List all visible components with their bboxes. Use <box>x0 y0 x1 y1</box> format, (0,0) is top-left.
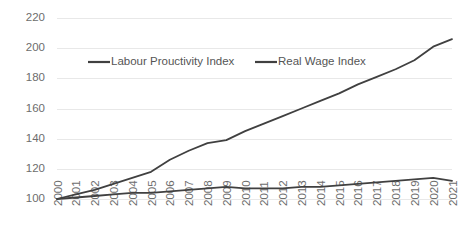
chart-legend: Labour Prouctivity IndexReal Wage Index <box>88 55 366 67</box>
x-axis-tick-label: 2009 <box>221 180 233 206</box>
x-axis-tick-label: 2007 <box>183 180 195 206</box>
legend-label-1: Labour Prouctivity Index <box>111 55 235 67</box>
y-axis-tick-label: 100 <box>26 192 45 204</box>
y-axis-tick-label: 120 <box>26 162 45 174</box>
x-axis-tick-label: 2013 <box>296 180 308 206</box>
y-axis-tick-label: 180 <box>26 71 45 83</box>
x-axis-tick-label: 2021 <box>447 180 459 206</box>
x-axis-tick-label: 2018 <box>390 180 402 206</box>
y-axis-tick-label: 160 <box>26 102 45 114</box>
x-axis-tick-label: 2011 <box>258 181 270 206</box>
x-axis-tick-label: 2017 <box>371 180 383 206</box>
x-axis-tick-label: 2019 <box>409 180 421 206</box>
x-axis-tick-label: 2000 <box>52 180 64 206</box>
y-axis-tick-label: 140 <box>26 132 45 144</box>
x-axis-tick-label: 2014 <box>315 180 327 206</box>
chart-canvas: 100120140160180200220 200020012002200320… <box>0 0 462 252</box>
x-axis-tick-label: 2008 <box>202 180 214 206</box>
chart-background <box>0 0 462 252</box>
y-axis-tick-label: 220 <box>26 11 45 23</box>
x-axis-tick-label: 2012 <box>277 180 289 206</box>
y-axis-tick-label: 200 <box>26 41 45 53</box>
x-axis-tick-label: 2010 <box>240 180 252 206</box>
x-axis-tick-label: 2006 <box>164 180 176 206</box>
line-chart: 100120140160180200220 200020012002200320… <box>0 0 462 252</box>
x-axis-tick-label: 2020 <box>428 180 440 206</box>
x-axis-tick-label: 2002 <box>89 180 101 206</box>
legend-label-2: Real Wage Index <box>278 55 366 67</box>
